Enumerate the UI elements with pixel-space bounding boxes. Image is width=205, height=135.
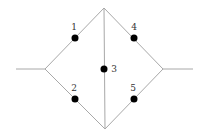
component-label-4: 4	[131, 22, 137, 32]
bridge-network-diagram: 12345	[0, 0, 205, 135]
component-node-1	[72, 35, 79, 42]
component-label-5: 5	[130, 83, 136, 93]
component-node-2	[72, 96, 79, 103]
component-label-2: 2	[71, 83, 77, 93]
component-node-5	[131, 96, 138, 103]
component-node-4	[131, 35, 138, 42]
component-label-1: 1	[71, 22, 77, 32]
component-node-3	[101, 66, 108, 73]
component-label-3: 3	[111, 64, 117, 74]
